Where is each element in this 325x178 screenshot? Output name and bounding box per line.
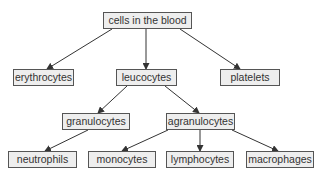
node-macrophages: macrophages xyxy=(246,151,314,168)
arrow-leu-to-gra xyxy=(98,86,127,113)
node-agranulocytes: agranulocytes xyxy=(166,113,235,130)
blood-cells-tree-diagram: cells in the blood erythrocytes leucocyt… xyxy=(0,0,325,178)
arrow-agr-to-mon xyxy=(122,130,168,151)
node-platelets: platelets xyxy=(220,69,280,86)
node-leucocytes: leucocytes xyxy=(116,69,177,86)
arrow-gra-to-neu xyxy=(45,130,88,151)
node-monocytes: monocytes xyxy=(88,151,156,168)
node-erythrocytes: erythrocytes xyxy=(13,69,74,86)
arrow-blood-to-pla xyxy=(180,29,240,69)
node-granulocytes: granulocytes xyxy=(62,113,130,130)
arrow-leu-to-agr xyxy=(165,86,199,113)
arrow-blood-to-ery xyxy=(47,29,112,69)
node-neutrophils: neutrophils xyxy=(8,151,77,168)
node-cells-in-the-blood: cells in the blood xyxy=(103,12,192,29)
arrow-agr-to-mac xyxy=(232,130,278,151)
node-lymphocytes: lymphocytes xyxy=(166,151,234,168)
